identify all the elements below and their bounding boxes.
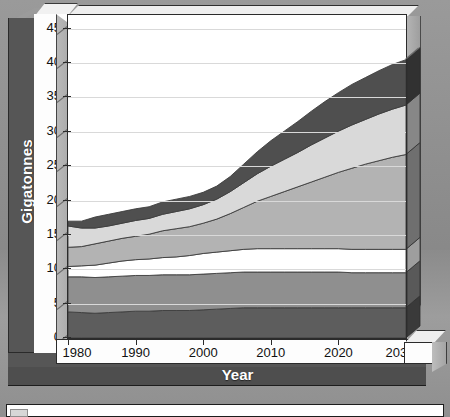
gridline bbox=[68, 269, 406, 270]
x-axis-tick-label: 2000 bbox=[189, 345, 218, 360]
gridline bbox=[68, 235, 406, 236]
gridline bbox=[68, 97, 406, 98]
y-axis-tick-mark bbox=[63, 337, 71, 338]
y-axis-tick-mark bbox=[63, 234, 71, 235]
chart-figure: Gigatonnes 051015202530354045 1980199020… bbox=[0, 0, 450, 400]
y-axis-tick-mark bbox=[63, 131, 71, 132]
gridline bbox=[68, 63, 406, 64]
x-axis-tick-label: 2020 bbox=[324, 345, 353, 360]
corner-cube-side bbox=[432, 342, 447, 372]
x-axis-strip: 198019902000201020202030 bbox=[56, 339, 419, 364]
area-band-band-2 bbox=[68, 272, 406, 313]
corner-cube-front bbox=[404, 342, 433, 364]
y-axis-tick-mark bbox=[63, 28, 71, 29]
y-axis-title: Gigatonnes bbox=[18, 17, 35, 347]
x-axis-tick-label: 1990 bbox=[121, 345, 150, 360]
plot-area bbox=[67, 14, 407, 339]
x-axis-tick-label: 1980 bbox=[63, 345, 92, 360]
y-axis-tick-mark bbox=[63, 268, 71, 269]
gridline bbox=[68, 166, 406, 167]
gridline bbox=[68, 132, 406, 133]
gridline bbox=[68, 201, 406, 202]
y-axis-tick-mark bbox=[63, 303, 71, 304]
depth-face-band-4 bbox=[407, 143, 420, 249]
y-axis-title-wrap: Gigatonnes bbox=[9, 18, 33, 368]
axis-corner-cube bbox=[404, 330, 446, 372]
y-axis-tick-mark bbox=[63, 165, 71, 166]
x-axis-tick-label: 2010 bbox=[256, 345, 285, 360]
y-axis-tick-mark bbox=[63, 62, 71, 63]
y-axis-tick-mark bbox=[63, 200, 71, 201]
gridline bbox=[68, 304, 406, 305]
gridline bbox=[68, 29, 406, 30]
x-axis-title: Year bbox=[56, 366, 419, 383]
y-axis-tick-mark bbox=[63, 96, 71, 97]
legend-swatch-1 bbox=[10, 409, 28, 417]
stack-depth-faces bbox=[395, 14, 421, 344]
legend-panel bbox=[6, 404, 444, 417]
